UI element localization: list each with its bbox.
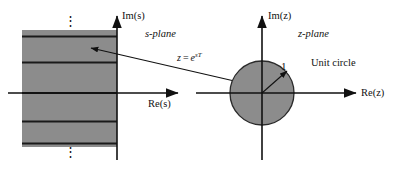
unit-radius-label: 1 [281, 61, 287, 72]
figure-canvas [0, 0, 397, 178]
s-plane-label: s-plane [145, 29, 176, 40]
mapping-equals: = [181, 52, 191, 63]
unit-circle-label: Unit circle [311, 58, 356, 69]
s-imaginary-axis-label: Im(s) [122, 11, 145, 22]
z-real-axis-label: Re(z) [361, 88, 384, 99]
s-plane-ellipsis-bottom: ⋮ [64, 145, 77, 158]
mapping-exp-power: sT [195, 51, 202, 59]
mapping-equation: z=esT [177, 52, 202, 63]
s-real-axis-label: Re(s) [148, 99, 171, 110]
z-imaginary-axis-label: Im(z) [268, 11, 291, 22]
figure-root: Im(s) s-plane Re(s) ⋮ ⋮ z=esT Im(z) z-pl… [0, 0, 397, 178]
z-plane-label: z-plane [298, 29, 329, 40]
s-plane-shaded-region [22, 30, 117, 147]
s-plane-ellipsis-top: ⋮ [64, 14, 77, 27]
